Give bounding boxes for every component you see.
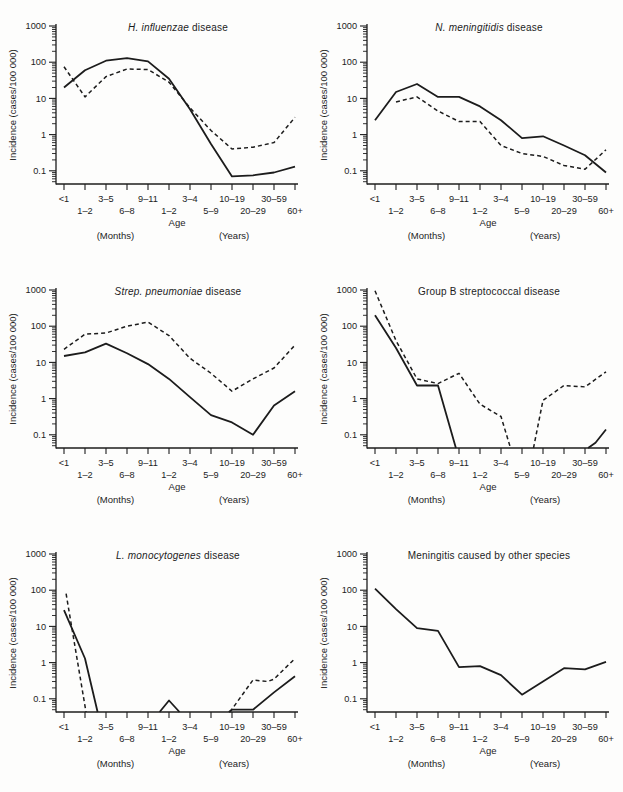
chart-panel-strep-pneumoniae: 10001001010.1<11–23–56–89–111–23–45–910–… bbox=[0, 264, 311, 528]
x-axis-tick-label: 1–2 bbox=[77, 206, 92, 216]
x-axis-tick-label: 60+ bbox=[598, 734, 614, 744]
x-axis-tick-label: <1 bbox=[370, 194, 380, 204]
x-axis-tick-label: 1–2 bbox=[472, 206, 487, 216]
months-unit-label: (Months) bbox=[97, 230, 134, 241]
x-axis-tick-label: 20–29 bbox=[240, 734, 266, 744]
chart-title-text: disease bbox=[504, 22, 543, 33]
x-axis-tick-label: 6–8 bbox=[119, 470, 134, 480]
x-axis-tick-label: 6–8 bbox=[430, 470, 445, 480]
y-axis-tick-label: 100 bbox=[342, 321, 357, 331]
chart-title-text: disease bbox=[201, 550, 240, 561]
x-axis-tick-label: 1–2 bbox=[472, 470, 487, 480]
x-axis-tick-label: 30–59 bbox=[261, 458, 287, 468]
x-axis-tick-label: 30–59 bbox=[572, 722, 598, 732]
chart-title: Strep. pneumoniae disease bbox=[58, 286, 298, 297]
x-axis-tick-label: 10–19 bbox=[530, 194, 556, 204]
chart-title-species: Strep. pneumoniae bbox=[115, 286, 203, 297]
x-axis-tick-label: 20–29 bbox=[551, 206, 577, 216]
dashed-series-line bbox=[396, 97, 606, 169]
x-axis-tick-label: 3–4 bbox=[182, 722, 197, 732]
x-axis-tick-label: 5–9 bbox=[203, 206, 218, 216]
chart-canvas-l-monocytogenes: 10001001010.1<11–23–56–89–111–23–45–910–… bbox=[4, 542, 306, 782]
x-axis-tick-label: 60+ bbox=[287, 470, 303, 480]
x-axis-title: Age bbox=[480, 481, 497, 492]
dashed-series-line bbox=[230, 659, 295, 713]
x-axis-tick-label: 30–59 bbox=[261, 722, 287, 732]
x-axis-tick-label: <1 bbox=[59, 722, 69, 732]
chart-canvas-h-influenzae: 10001001010.1<11–23–56–89–111–23–45–910–… bbox=[4, 14, 306, 254]
x-axis-tick-label: 1–2 bbox=[77, 470, 92, 480]
y-axis-tick-label: 1000 bbox=[26, 21, 46, 31]
solid-series-line bbox=[229, 676, 295, 712]
x-axis-title: Age bbox=[169, 481, 186, 492]
y-axis-tick-label: 0.1 bbox=[33, 166, 46, 176]
y-axis-tick-label: 10 bbox=[347, 94, 357, 104]
x-axis-tick-label: 10–19 bbox=[219, 458, 245, 468]
x-axis-tick-label: <1 bbox=[370, 722, 380, 732]
years-unit-label: (Years) bbox=[219, 758, 249, 769]
chart-canvas-strep-pneumoniae: 10001001010.1<11–23–56–89–111–23–45–910–… bbox=[4, 278, 306, 518]
x-axis-tick-label: 20–29 bbox=[240, 206, 266, 216]
chart-panel-l-monocytogenes: 10001001010.1<11–23–56–89–111–23–45–910–… bbox=[0, 528, 311, 792]
months-unit-label: (Months) bbox=[408, 494, 445, 505]
y-axis-tick-label: 0.1 bbox=[344, 694, 357, 704]
y-axis-tick-label: 1 bbox=[352, 658, 357, 668]
x-axis-title: Age bbox=[480, 745, 497, 756]
y-axis-tick-label: 0.1 bbox=[33, 694, 46, 704]
chart-canvas-other-species: 10001001010.1<11–23–56–89–111–23–45–910–… bbox=[315, 542, 617, 782]
x-axis-tick-label: 1–2 bbox=[77, 734, 92, 744]
chart-title: H. influenzae disease bbox=[58, 22, 298, 33]
figure-page: 10001001010.1<11–23–56–89–111–23–45–910–… bbox=[0, 0, 623, 792]
y-axis-tick-label: 100 bbox=[31, 585, 46, 595]
x-axis-tick-label: 1–2 bbox=[388, 206, 403, 216]
x-axis-title: Age bbox=[169, 745, 186, 756]
years-unit-label: (Years) bbox=[530, 230, 560, 241]
y-axis-title: Incidence (cases/100 000) bbox=[318, 313, 329, 424]
chart-panel-h-influenzae: 10001001010.1<11–23–56–89–111–23–45–910–… bbox=[0, 0, 311, 264]
x-axis-title: Age bbox=[480, 217, 497, 228]
x-axis-tick-label: 3–5 bbox=[409, 722, 424, 732]
solid-series-line bbox=[64, 58, 295, 176]
y-axis-tick-label: 0.1 bbox=[344, 430, 357, 440]
chart-canvas-n-meningitidis: 10001001010.1<11–23–56–89–111–23–45–910–… bbox=[315, 14, 617, 254]
solid-series-line bbox=[64, 610, 98, 712]
x-axis-tick-label: 5–9 bbox=[203, 470, 218, 480]
x-axis-tick-label: 3–5 bbox=[98, 722, 113, 732]
x-axis-tick-label: 60+ bbox=[287, 206, 303, 216]
x-axis-tick-label: <1 bbox=[59, 458, 69, 468]
chart-panel-n-meningitidis: 10001001010.1<11–23–56–89–111–23–45–910–… bbox=[311, 0, 623, 264]
y-axis-tick-label: 1000 bbox=[26, 285, 46, 295]
y-axis-tick-label: 1 bbox=[352, 394, 357, 404]
y-axis-tick-label: 1 bbox=[41, 394, 46, 404]
x-axis-tick-label: 10–19 bbox=[530, 722, 556, 732]
x-axis-tick-label: 9–11 bbox=[449, 194, 469, 204]
x-axis-tick-label: 9–11 bbox=[138, 194, 158, 204]
x-axis-tick-label: 3–4 bbox=[182, 458, 197, 468]
x-axis-tick-label: 1–2 bbox=[161, 734, 176, 744]
x-axis-tick-label: 9–11 bbox=[449, 722, 469, 732]
solid-series-line bbox=[64, 344, 295, 435]
x-axis-tick-label: 10–19 bbox=[219, 194, 245, 204]
y-axis-tick-label: 10 bbox=[36, 358, 46, 368]
x-axis-title: Age bbox=[169, 217, 186, 228]
chart-title: L. monocytogenes disease bbox=[58, 550, 298, 561]
x-axis-tick-label: 20–29 bbox=[240, 470, 266, 480]
months-unit-label: (Months) bbox=[97, 494, 134, 505]
x-axis-tick-label: 9–11 bbox=[449, 458, 469, 468]
x-axis-tick-label: 5–9 bbox=[203, 734, 218, 744]
years-unit-label: (Years) bbox=[219, 230, 249, 241]
x-axis-tick-label: 6–8 bbox=[119, 734, 134, 744]
y-axis-tick-label: 10 bbox=[36, 94, 46, 104]
y-axis-tick-label: 1 bbox=[41, 130, 46, 140]
y-axis-tick-label: 1 bbox=[41, 658, 46, 668]
x-axis-tick-label: <1 bbox=[370, 458, 380, 468]
x-axis-tick-label: 3–5 bbox=[98, 458, 113, 468]
x-axis-tick-label: 1–2 bbox=[388, 734, 403, 744]
months-unit-label: (Months) bbox=[408, 230, 445, 241]
x-axis-tick-label: 9–11 bbox=[138, 722, 158, 732]
x-axis-tick-label: 30–59 bbox=[572, 458, 598, 468]
y-axis-tick-label: 10 bbox=[347, 622, 357, 632]
solid-series-line bbox=[375, 315, 456, 448]
x-axis-tick-label: 6–8 bbox=[119, 206, 134, 216]
y-axis-tick-label: 100 bbox=[342, 585, 357, 595]
